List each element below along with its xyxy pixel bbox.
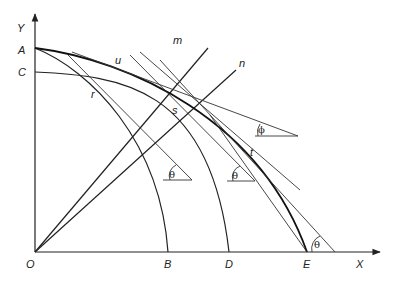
angle-phi: ϕ <box>255 124 298 136</box>
label-t: t <box>250 146 254 158</box>
tangent-line-s2 <box>140 52 300 190</box>
label-a: A <box>17 44 25 56</box>
label-m: m <box>173 34 182 46</box>
label-b: B <box>164 258 171 270</box>
label-y: Y <box>17 22 25 34</box>
label-n: n <box>239 57 245 69</box>
tangent-line-t <box>160 60 335 252</box>
label-u: u <box>115 54 121 66</box>
label-d: D <box>225 258 233 270</box>
theta-label-3: θ <box>314 239 320 250</box>
theta-label-1: θ <box>169 169 175 180</box>
label-o: O <box>26 258 35 270</box>
angle-theta-1: θ <box>163 165 192 180</box>
label-e: E <box>303 258 311 270</box>
label-c: C <box>18 66 26 78</box>
construction-diagram: θ θ θ ϕ Y A C O B D E X m n u r s t <box>0 0 398 283</box>
label-r: r <box>91 88 96 100</box>
angle-theta-2: θ <box>227 166 255 181</box>
label-x: X <box>355 258 364 270</box>
theta-label-2: θ <box>232 170 238 181</box>
ray-m <box>35 48 208 252</box>
phi-label: ϕ <box>258 124 265 135</box>
angle-theta-3: θ <box>312 236 320 252</box>
label-s: s <box>172 104 178 116</box>
